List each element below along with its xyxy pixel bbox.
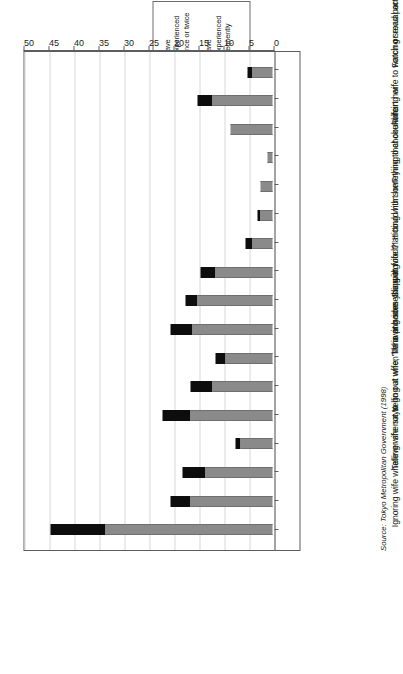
rotated-figure: have experienced once or twice have expe…	[0, 0, 403, 674]
stacked-bar[interactable]	[230, 124, 273, 135]
bar-segment-once-or-twice	[205, 467, 273, 478]
source-note: Source: Tokyo Metropolitan Government (1…	[378, 387, 387, 551]
value-axis-tick-label: 25	[149, 39, 159, 48]
category-label: Slapping	[390, 264, 399, 297]
bar-slot	[22, 487, 272, 516]
bar-segment-once-or-twice	[240, 438, 273, 449]
bar-slot	[22, 458, 272, 487]
stacked-bar[interactable]	[182, 467, 272, 478]
bar-segment-frequently	[190, 381, 213, 392]
bar-segment-once-or-twice	[105, 524, 273, 535]
stacked-bar[interactable]	[235, 438, 273, 449]
stacked-bar[interactable]	[245, 238, 273, 249]
value-axis-tick-label: 5	[249, 39, 254, 48]
bar-segment-once-or-twice	[197, 295, 272, 306]
bar-segment-once-or-twice	[215, 267, 273, 278]
bar-slot	[22, 287, 272, 316]
bar-segment-once-or-twice	[260, 181, 273, 192]
bar-slot	[22, 430, 272, 459]
category-axis-tick	[274, 69, 278, 70]
category-axis-tick	[274, 529, 278, 530]
chart-bars	[22, 52, 272, 550]
bar-segment-once-or-twice	[192, 324, 272, 335]
category-axis-tick	[274, 155, 278, 156]
stacked-bar[interactable]	[247, 67, 272, 78]
bar-segment-once-or-twice	[252, 238, 272, 249]
bar-slot	[22, 201, 272, 230]
bar-slot	[22, 515, 272, 544]
bar-segment-once-or-twice	[252, 67, 272, 78]
bar-segment-frequently	[185, 295, 198, 306]
stacked-bar[interactable]	[257, 210, 272, 221]
stacked-bar[interactable]	[215, 353, 273, 364]
value-axis-tick-label: 20	[174, 39, 184, 48]
bar-segment-frequently	[197, 95, 212, 106]
value-axis-tick-label: 10	[224, 39, 234, 48]
bar-segment-frequently	[182, 467, 205, 478]
bar-slot	[22, 401, 272, 430]
stacked-bar[interactable]	[185, 295, 273, 306]
bar-segment-frequently	[170, 324, 193, 335]
bar-segment-once-or-twice	[260, 210, 273, 221]
bar-segment-once-or-twice	[212, 95, 272, 106]
value-axis-tick-label: 40	[74, 39, 84, 48]
value-axis-tick-label: 30	[124, 39, 134, 48]
category-axis-tick	[274, 127, 278, 128]
bar-segment-once-or-twice	[230, 124, 273, 135]
bar-segment-frequently	[247, 67, 252, 78]
stacked-bar[interactable]	[267, 152, 272, 163]
bar-segment-once-or-twice	[212, 381, 272, 392]
stacked-bar[interactable]	[162, 410, 272, 421]
bar-segment-once-or-twice	[267, 152, 272, 163]
bar-segment-once-or-twice	[190, 496, 273, 507]
bar-slot	[22, 372, 272, 401]
bar-slot	[22, 115, 272, 144]
stacked-bar[interactable]	[197, 95, 272, 106]
bar-segment-frequently	[50, 524, 105, 535]
category-axis-tick	[274, 471, 278, 472]
value-axis-tick-label: 45	[49, 39, 59, 48]
bar-segment-once-or-twice	[225, 353, 273, 364]
category-axis-tick	[274, 270, 278, 271]
stacked-bar[interactable]	[190, 381, 273, 392]
category-axis-tick	[274, 242, 278, 243]
category-axis-tick	[274, 414, 278, 415]
value-axis: 05101520253035404550	[23, 21, 300, 51]
bar-slot	[22, 58, 272, 87]
bar-segment-frequently	[200, 267, 215, 278]
category-axis-tick	[274, 213, 278, 214]
category-label: Forcing sexual acts by threat or violenc…	[390, 0, 399, 68]
bar-segment-frequently	[162, 410, 190, 421]
bar-slot	[22, 229, 272, 258]
category-axis-tick	[274, 443, 278, 444]
stacked-bar[interactable]	[170, 324, 273, 335]
category-axis-tick	[274, 184, 278, 185]
category-axis-tick	[274, 98, 278, 99]
bar-segment-frequently	[245, 238, 253, 249]
bar-slot	[22, 144, 272, 173]
value-axis-tick-label: 0	[274, 39, 279, 48]
bar-slot	[22, 315, 272, 344]
bar-slot	[22, 258, 272, 287]
category-axis-tick	[274, 500, 278, 501]
value-axis-tick-label: 15	[199, 39, 209, 48]
stacked-bar[interactable]	[200, 267, 273, 278]
bar-slot	[22, 344, 272, 373]
category-axis-tick	[274, 299, 278, 300]
bar-segment-frequently	[235, 438, 240, 449]
value-axis-tick-label: 50	[24, 39, 34, 48]
stacked-bar[interactable]	[170, 496, 273, 507]
category-axis-tick	[274, 328, 278, 329]
value-axis-tick-label: 35	[99, 39, 109, 48]
category-axis-tick	[274, 385, 278, 386]
bar-slot	[22, 87, 272, 116]
category-axis-tick	[274, 356, 278, 357]
bar-segment-frequently	[170, 496, 190, 507]
bar-segment-once-or-twice	[190, 410, 273, 421]
stacked-bar[interactable]	[50, 524, 273, 535]
bar-segment-frequently	[215, 353, 225, 364]
chart-plot-area	[23, 51, 300, 551]
bar-slot	[22, 172, 272, 201]
stacked-bar[interactable]	[260, 181, 273, 192]
